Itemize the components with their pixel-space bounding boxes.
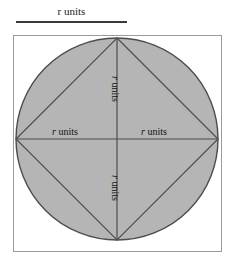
radius-label-bottom-unit: units [110,179,121,201]
scale-unit: units [61,5,85,17]
diagram-shapes [13,35,222,252]
radius-label-left: r units [52,126,78,137]
radius-label-top: r units [110,76,121,102]
radius-label-right-unit: units [145,126,167,137]
radius-label-right: r units [141,126,167,137]
scale-bar-label: r units [16,5,127,18]
radius-label-top-unit: units [110,80,121,102]
geometry-figure: r units r units r units r units r units [0,0,235,261]
scale-bar-rule [16,21,127,23]
radius-label-left-unit: units [56,126,78,137]
radius-label-bottom: r units [110,175,121,201]
